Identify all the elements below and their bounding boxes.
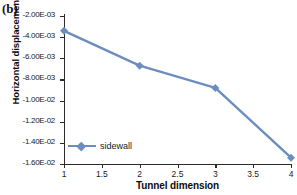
data-point-marker xyxy=(136,62,144,70)
x-tick xyxy=(178,164,179,168)
legend: sidewall xyxy=(68,141,132,151)
y-tick-label: -1.00E-02 xyxy=(23,95,55,104)
y-tick-label: -4.00E-03 xyxy=(23,31,55,40)
x-tick-label: 4 xyxy=(289,169,294,179)
y-tick-label: -1.20E-02 xyxy=(23,116,55,125)
x-tick-label: 1.5 xyxy=(96,169,108,179)
plot-area: -2.00E-03-4.00E-03-6.00E-03-8.00E-03-1.0… xyxy=(64,16,291,164)
y-tick-label: -2.00E-03 xyxy=(23,10,55,19)
x-tick-label: 3 xyxy=(213,169,218,179)
y-tick-label: -8.00E-03 xyxy=(23,73,55,82)
x-tick xyxy=(102,164,103,168)
y-tick-label: -1.40E-02 xyxy=(23,137,55,146)
legend-swatch-sidewall xyxy=(68,141,96,151)
y-tick-label: -6.00E-03 xyxy=(23,52,55,61)
legend-diamond-icon xyxy=(77,141,86,150)
data-point-marker xyxy=(60,27,68,35)
y-tick-label: -1.60E-02 xyxy=(23,158,55,167)
x-axis-title: Tunnel dimension xyxy=(64,180,291,191)
x-tick xyxy=(64,164,65,168)
y-axis-title: Horizontal displacement(m) xyxy=(10,0,21,119)
x-tick xyxy=(140,164,141,168)
x-tick xyxy=(291,164,292,168)
x-tick xyxy=(253,164,254,168)
series-line xyxy=(64,31,291,158)
legend-label-sidewall: sidewall xyxy=(100,141,132,151)
x-tick-label: 1 xyxy=(62,169,67,179)
x-tick xyxy=(215,164,216,168)
figure-panel-b: (b) Horizontal displacement(m) Tunnel di… xyxy=(0,0,297,195)
x-tick-label: 3.5 xyxy=(247,169,259,179)
x-tick-label: 2 xyxy=(137,169,142,179)
x-tick-label: 2.5 xyxy=(172,169,184,179)
